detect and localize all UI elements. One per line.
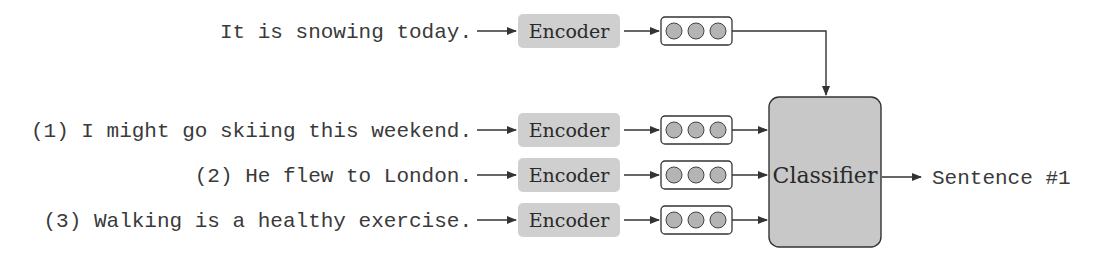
arrow-icon xyxy=(732,31,826,95)
vector-unit-icon xyxy=(666,122,682,138)
encoder-box: Encoder xyxy=(518,158,620,192)
vector-unit-icon xyxy=(666,23,682,39)
vector-box xyxy=(661,116,732,144)
vector-unit-icon xyxy=(688,212,704,228)
vector-unit-icon xyxy=(710,212,726,228)
classifier-box: Classifier xyxy=(769,97,881,247)
vector-unit-icon xyxy=(710,167,726,183)
query-row: It is snowing today. Encoder xyxy=(220,14,826,95)
vector-unit-icon xyxy=(688,122,704,138)
candidate-row-3: (3) Walking is a healthy exercise. Encod… xyxy=(44,203,767,237)
diagram-canvas: It is snowing today. Encoder (1) I might… xyxy=(0,0,1101,264)
vector-unit-icon xyxy=(710,122,726,138)
encoder-label: Encoder xyxy=(529,20,611,42)
encoder-box: Encoder xyxy=(518,14,620,48)
candidate-sentence: (3) Walking is a healthy exercise. xyxy=(44,210,472,233)
encoder-label: Encoder xyxy=(529,119,611,141)
candidate-sentence: (1) I might go skiing this weekend. xyxy=(31,120,472,143)
output-label: Sentence #1 xyxy=(932,167,1071,190)
encoder-box: Encoder xyxy=(518,113,620,147)
vector-box xyxy=(661,161,732,189)
encoder-box: Encoder xyxy=(518,203,620,237)
vector-unit-icon xyxy=(666,212,682,228)
vector-unit-icon xyxy=(666,167,682,183)
encoder-label: Encoder xyxy=(529,209,611,231)
vector-unit-icon xyxy=(688,167,704,183)
candidate-sentence: (2) He flew to London. xyxy=(195,165,472,188)
candidate-row-1: (1) I might go skiing this weekend. Enco… xyxy=(31,113,767,147)
encoder-label: Encoder xyxy=(529,164,611,186)
vector-unit-icon xyxy=(688,23,704,39)
vector-unit-icon xyxy=(710,23,726,39)
candidate-row-2: (2) He flew to London. Encoder xyxy=(195,158,767,192)
vector-box xyxy=(661,17,732,45)
classifier-label: Classifier xyxy=(773,163,878,188)
vector-box xyxy=(661,206,732,234)
query-sentence: It is snowing today. xyxy=(220,21,472,44)
